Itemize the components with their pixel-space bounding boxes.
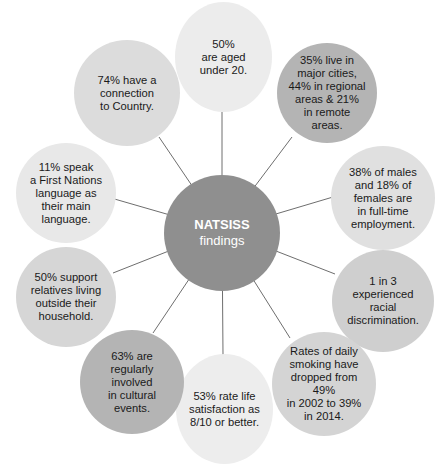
bubble-location: 35% live in major cities, 44% in regiona… (277, 43, 377, 143)
center-bubble: NATSISS findings (164, 175, 280, 291)
bubble-language-text: 11% speak a First Nations language as th… (30, 161, 102, 226)
bubble-age-text: 50% are aged under 20. (200, 38, 247, 77)
bubble-age: 50% are aged under 20. (175, 2, 272, 112)
bubble-smoking-text: Rates of daily smoking have dropped from… (282, 345, 366, 423)
bubble-smoking: Rates of daily smoking have dropped from… (272, 332, 376, 436)
bubble-discrimination-text: 1 in 3 experienced racial discrimination… (342, 275, 424, 327)
bubble-cultural-events-text: 63% are regularly involved in cultural e… (90, 350, 174, 415)
bubble-language: 11% speak a First Nations language as th… (16, 143, 116, 243)
bubble-support-relatives-text: 50% support relatives living outside the… (31, 271, 101, 323)
bubble-location-text: 35% live in major cities, 44% in regiona… (288, 54, 365, 132)
bubble-country: 74% have a connection to Country. (74, 40, 180, 146)
bubble-employment: 38% of males and 18% of females are in f… (331, 146, 435, 250)
bubble-life-satisfaction-text: 53% rate life satisfaction as 8/10 or be… (189, 390, 260, 429)
center-title: NATSISS (194, 217, 249, 233)
bubble-employment-text: 38% of males and 18% of females are in f… (349, 166, 417, 231)
bubble-country-text: 74% have a connection to Country. (97, 74, 156, 113)
bubble-support-relatives: 50% support relatives living outside the… (16, 247, 116, 347)
bubble-cultural-events: 63% are regularly involved in cultural e… (80, 330, 184, 434)
bubble-life-satisfaction: 53% rate life satisfaction as 8/10 or be… (176, 354, 273, 464)
center-subtitle: findings (194, 233, 249, 249)
